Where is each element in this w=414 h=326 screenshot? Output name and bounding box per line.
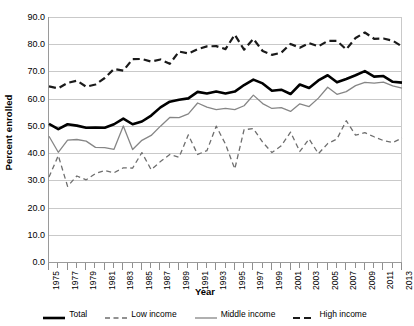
legend-label: Middle income xyxy=(221,310,276,319)
x-axis-tick xyxy=(290,263,291,270)
x-axis-tick xyxy=(76,263,77,268)
x-axis-tick xyxy=(132,263,133,268)
x-axis-tick xyxy=(169,263,170,268)
y-axis-tick-label: 30.0 xyxy=(27,176,45,185)
legend-item-low-income[interactable]: Low income xyxy=(105,309,176,319)
legend-item-total[interactable]: Total xyxy=(43,309,87,319)
x-axis-tick xyxy=(197,263,198,270)
x-axis-tick xyxy=(206,263,207,268)
legend-label: Low income xyxy=(131,310,176,319)
series-line-high-income xyxy=(49,33,402,89)
y-axis-tick-label: 20.0 xyxy=(27,203,45,212)
legend-label: Total xyxy=(69,310,87,319)
x-axis-tick xyxy=(187,263,188,268)
y-axis-tick-label: 40.0 xyxy=(27,149,45,158)
x-axis-tick xyxy=(178,263,179,270)
legend-swatch-total xyxy=(43,309,65,319)
x-axis-tick xyxy=(364,263,365,270)
x-axis-tick xyxy=(262,263,263,268)
x-axis-tick xyxy=(225,263,226,268)
legend-label: High income xyxy=(319,310,366,319)
x-axis-ticks xyxy=(48,263,402,271)
x-axis-tick xyxy=(104,263,105,270)
x-axis-tick xyxy=(122,263,123,270)
y-axis-tick-label: 0.0 xyxy=(32,258,45,267)
legend-swatch-high-income xyxy=(293,309,315,319)
x-axis-tick xyxy=(373,263,374,268)
x-axis-tick xyxy=(317,263,318,268)
x-axis-tick xyxy=(382,263,383,270)
series-lines xyxy=(49,17,402,262)
x-axis-tick xyxy=(280,263,281,268)
x-axis-tick xyxy=(299,263,300,268)
x-axis-tick xyxy=(48,263,49,270)
y-axis-tick-label: 60.0 xyxy=(27,94,45,103)
x-axis-tick xyxy=(57,263,58,268)
chart-legend: TotalLow incomeMiddle incomeHigh income xyxy=(0,305,410,323)
y-axis-tick-labels: 0.010.020.030.040.050.060.070.080.090.0 xyxy=(14,0,48,265)
x-axis-tick xyxy=(252,263,253,270)
y-axis-tick-label: 50.0 xyxy=(27,121,45,130)
x-axis-tick xyxy=(67,263,68,270)
y-axis-tick-label: 70.0 xyxy=(27,67,45,76)
x-axis-tick xyxy=(113,263,114,268)
y-axis-tick-label: 90.0 xyxy=(27,13,45,22)
x-axis-tick xyxy=(345,263,346,270)
series-line-low-income xyxy=(49,121,402,187)
x-axis-title: Year xyxy=(0,286,410,297)
legend-swatch-middle-income xyxy=(195,309,217,319)
y-axis-tick-label: 80.0 xyxy=(27,40,45,49)
x-axis-tick xyxy=(85,263,86,270)
x-axis-tick xyxy=(392,263,393,268)
x-axis-tick xyxy=(243,263,244,268)
x-axis-tick xyxy=(327,263,328,270)
x-axis-tick xyxy=(94,263,95,268)
x-axis-tick xyxy=(159,263,160,270)
x-axis-tick xyxy=(215,263,216,270)
x-axis-tick xyxy=(234,263,235,270)
legend-swatch-low-income xyxy=(105,309,127,319)
x-axis-tick xyxy=(271,263,272,270)
x-axis-tick xyxy=(150,263,151,268)
x-axis-tick xyxy=(141,263,142,270)
y-axis-tick-label: 10.0 xyxy=(27,230,45,239)
x-axis-tick xyxy=(355,263,356,268)
legend-item-middle-income[interactable]: Middle income xyxy=(195,309,276,319)
y-axis-title-text: Percent enrolled xyxy=(3,94,14,170)
x-axis-tick xyxy=(401,263,402,270)
x-axis-tick xyxy=(308,263,309,270)
x-axis-tick xyxy=(336,263,337,268)
plot-area xyxy=(48,17,402,263)
legend-item-high-income[interactable]: High income xyxy=(293,309,366,319)
